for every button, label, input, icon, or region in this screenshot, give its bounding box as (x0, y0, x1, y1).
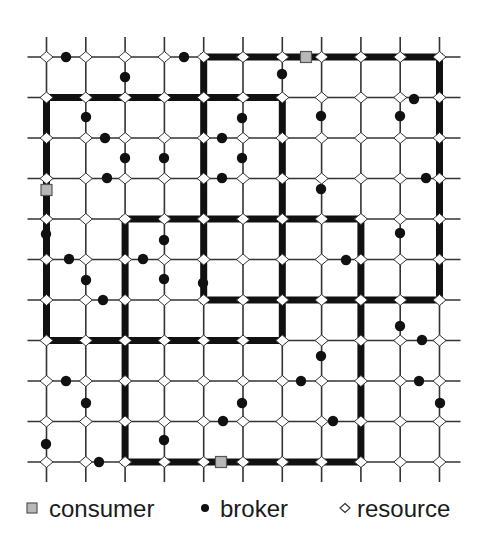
broker-dot-icon (435, 398, 445, 408)
legend-label-consumer: consumer (49, 495, 154, 522)
resource-diamond-icon (315, 416, 328, 427)
broker-dot-icon (218, 416, 228, 426)
broker-dot-icon (159, 235, 169, 245)
resource-diamond-icon (276, 457, 289, 468)
resource-diamond-icon (158, 52, 171, 63)
resource-diamond-icon (158, 376, 171, 387)
consumer-square-icon (301, 52, 312, 63)
resource-diamond-icon (158, 416, 171, 427)
consumer-square-icon (27, 503, 37, 513)
resource-diamond-icon (394, 376, 407, 387)
resource-diamond-icon (119, 335, 132, 346)
resource-diamond-icon (79, 92, 92, 103)
resource-diamond-icon (433, 295, 446, 306)
resource-diamond-icon (158, 173, 171, 184)
resource-diamond-icon (394, 416, 407, 427)
broker-dot-icon (120, 72, 130, 82)
resource-diamond-icon (197, 416, 210, 427)
resource-diamond-icon (315, 376, 328, 387)
resource-diamond-icon (394, 335, 407, 346)
resource-diamond-icon (433, 133, 446, 144)
resource-diamond-icon (315, 214, 328, 225)
resource-diamond-icon (354, 416, 367, 427)
resource-diamond-icon (276, 376, 289, 387)
broker-dot-icon (395, 228, 405, 238)
network-grid-diagram: consumer broker resource (0, 0, 489, 545)
resource-diamond-icon (158, 92, 171, 103)
resource-diamond-icon (158, 295, 171, 306)
resource-diamond-icon (119, 133, 132, 144)
resource-diamond-icon (40, 173, 53, 184)
resource-diamond-icon (354, 335, 367, 346)
resource-diamond-icon (354, 254, 367, 265)
broker-dot-icon (94, 457, 104, 467)
resource-diamond-icon (394, 52, 407, 63)
resource-diamond-icon (315, 254, 328, 265)
resource-diamond-icon (433, 92, 446, 103)
resource-diamond-icon (315, 457, 328, 468)
resource-diamond-icon (197, 254, 210, 265)
resource-diamond-icon (40, 254, 53, 265)
resource-diamond-icon (237, 52, 250, 63)
resource-diamond-icon (40, 214, 53, 225)
broker-dot-icon (341, 255, 351, 265)
resource-diamond-icon (315, 133, 328, 144)
resource-diamond-icon (433, 457, 446, 468)
resource-diamond-icon (354, 92, 367, 103)
resource-diamond-icon (394, 133, 407, 144)
resource-diamond-icon (79, 376, 92, 387)
broker-dot-icon (277, 69, 287, 79)
resource-diamond-icon (119, 416, 132, 427)
resource-diamond-icon (276, 52, 289, 63)
broker-dot-icon (120, 153, 130, 163)
resource-diamond-icon (119, 376, 132, 387)
broker-dot-icon (81, 275, 91, 285)
resource-diamond-icon (197, 335, 210, 346)
broker-dot-icon (100, 133, 110, 143)
resource-diamond-icon (237, 133, 250, 144)
resource-diamond-icon (237, 335, 250, 346)
broker-dot-icon (61, 376, 71, 386)
resource-diamond-icon (197, 52, 210, 63)
broker-dot-icon (159, 274, 169, 284)
resource-diamond-icon (315, 173, 328, 184)
resource-diamond-icon (40, 376, 53, 387)
broker-dot-icon (159, 435, 169, 445)
broker-dot-icon (81, 398, 91, 408)
resource-diamond-icon (40, 335, 53, 346)
broker-dot-icon (296, 376, 306, 386)
broker-dot-icon (201, 504, 209, 512)
resource-diamond-icon (119, 52, 132, 63)
resource-diamond-icon (276, 92, 289, 103)
resource-diamond-icon (40, 133, 53, 144)
resource-diamond-icon (394, 295, 407, 306)
resource-diamond-icon (315, 335, 328, 346)
resource-diamond-icon (354, 52, 367, 63)
broker-dot-icon (217, 133, 227, 143)
resource-diamond-icon (119, 295, 132, 306)
resource-diamond-icon (340, 504, 350, 513)
resource-diamond-icon (197, 173, 210, 184)
resource-diamond-icon (237, 214, 250, 225)
broker-dot-icon (414, 376, 424, 386)
resource-diamond-icon (354, 214, 367, 225)
resource-diamond-icon (79, 335, 92, 346)
resource-diamond-icon (354, 376, 367, 387)
broker-dot-icon (81, 112, 91, 122)
resource-diamond-icon (394, 254, 407, 265)
broker-dot-icon (328, 416, 338, 426)
consumer-square-icon (216, 457, 227, 468)
resource-diamond-icon (79, 52, 92, 63)
broker-dot-icon (64, 254, 74, 264)
broker-dot-icon (316, 351, 326, 361)
resource-diamond-icon (433, 335, 446, 346)
resource-diamond-icon (197, 457, 210, 468)
resource-diamond-icon (197, 133, 210, 144)
broker-dot-icon (237, 398, 247, 408)
resource-diamond-icon (40, 416, 53, 427)
resource-diamond-icon (119, 254, 132, 265)
resource-diamond-icon (354, 295, 367, 306)
resource-diamond-icon (394, 173, 407, 184)
resource-diamond-icon (119, 173, 132, 184)
broker-dot-icon (409, 94, 419, 104)
